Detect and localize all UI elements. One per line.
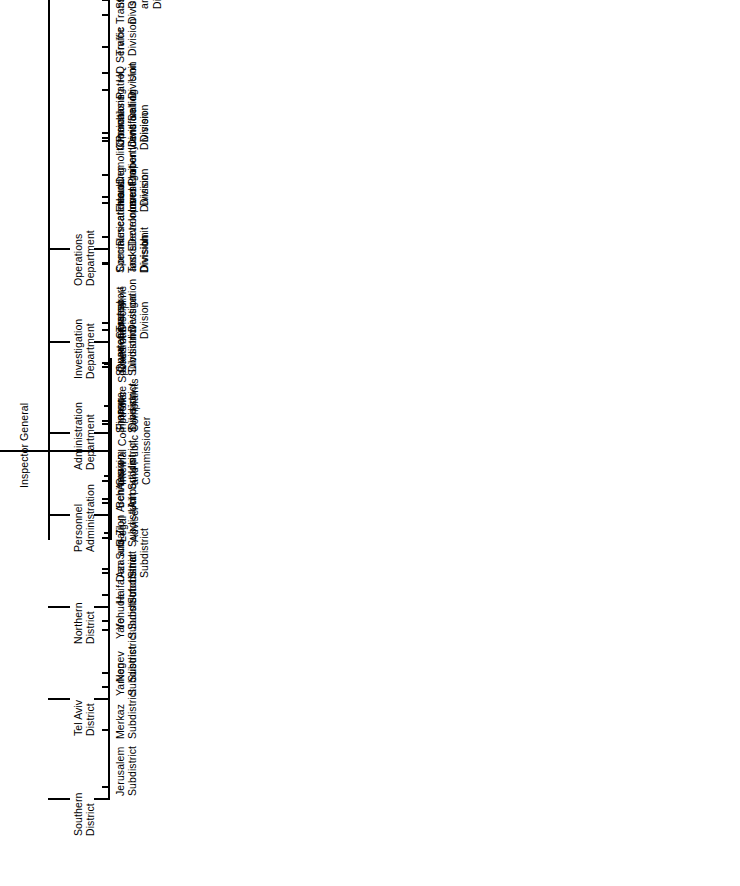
branch-connector (48, 248, 70, 250)
branch-connector (48, 798, 70, 800)
child-tick (102, 0, 108, 1)
branch-connector (48, 606, 70, 608)
branch-label: Border Guard (72, 842, 96, 886)
root-title: Inspector General (18, 338, 30, 488)
branch-connector (48, 341, 70, 343)
staff-bar (110, 358, 112, 540)
branch-connector (48, 432, 70, 434)
assistant-connector (0, 450, 48, 452)
child-tick (102, 196, 108, 198)
branch-child-bar-cap (94, 798, 110, 800)
org-chart-canvas: Inspector General Legal Adviser Internal… (0, 0, 740, 886)
org-chart-page: Inspector General Legal Adviser Internal… (0, 0, 740, 886)
child-tick (102, 132, 108, 134)
child-tick (102, 14, 108, 16)
main-spine (48, 0, 50, 540)
branch-connector (48, 698, 70, 700)
branch-connector (48, 514, 70, 516)
child-tick (102, 620, 108, 622)
child-label: Transport Division (114, 0, 138, 24)
child-tick (102, 729, 108, 731)
child-tick (102, 786, 108, 788)
child-tick (102, 423, 108, 425)
child-tick (102, 568, 108, 570)
child-label: Shomron Subdistrict (114, 266, 138, 376)
child-tick (102, 672, 108, 674)
branch-child-bar (108, 450, 110, 800)
child-tick (102, 498, 108, 500)
child-tick (102, 366, 108, 368)
child-tick (102, 72, 108, 74)
child-tick (102, 262, 108, 264)
branch-label: Southern District (72, 716, 96, 836)
child-label: Ben Gurion Airport Unit (114, 388, 138, 508)
